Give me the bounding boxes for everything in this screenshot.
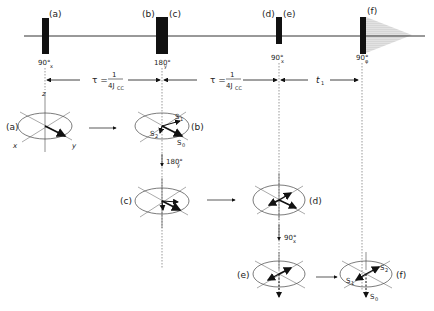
label-b: (b) <box>142 9 155 19</box>
svg-text:4J: 4J <box>108 82 115 90</box>
svg-text:CC: CC <box>117 85 124 91</box>
svg-text:t: t <box>316 75 320 85</box>
svg-text:(c): (c) <box>120 196 132 206</box>
pulse-angle-bc: 180° y <box>154 59 171 70</box>
fid-signal <box>366 17 412 53</box>
pulse-sequence: (a) (b) (c) (d) (e) (f) 90° x 180° y 90°… <box>24 6 425 290</box>
svg-text:CC: CC <box>235 85 242 91</box>
svg-text:x: x <box>50 63 53 69</box>
label-c: (c) <box>169 9 181 19</box>
label-e: (e) <box>283 9 296 19</box>
svg-text:90°: 90° <box>38 59 50 67</box>
svg-text:4J: 4J <box>226 82 233 90</box>
svg-text:2: 2 <box>385 267 388 273</box>
label-f: (f) <box>367 6 377 16</box>
label-d: (d) <box>262 9 275 19</box>
vector-diagram-b: S 1 S 2 S 0 (b) <box>135 112 204 148</box>
svg-text:x: x <box>12 142 18 150</box>
svg-text:1: 1 <box>112 71 116 79</box>
svg-text:1: 1 <box>230 71 234 79</box>
pulse-angle-a: 90° x <box>38 59 53 69</box>
svg-text:(a): (a) <box>6 122 19 132</box>
svg-text:y: y <box>164 63 167 70</box>
svg-text:1: 1 <box>321 80 324 86</box>
svg-text:2: 2 <box>155 133 158 139</box>
vector-diagram-c: (c) <box>120 178 189 228</box>
transition-pulse-180y: 180° y <box>166 158 183 169</box>
svg-text:(e): (e) <box>237 270 250 280</box>
svg-text:180°: 180° <box>154 59 171 67</box>
svg-text:0: 0 <box>182 142 185 148</box>
svg-text:x: x <box>293 238 296 244</box>
guide-lines <box>45 63 362 290</box>
svg-text:(d): (d) <box>309 196 322 206</box>
svg-text:(b): (b) <box>191 122 204 132</box>
pulse-angle-f: 90° φ <box>356 54 369 65</box>
svg-text:τ =: τ = <box>92 75 108 85</box>
svg-text:1: 1 <box>351 280 354 286</box>
pulse-sequence-figure: (a) (b) (c) (d) (e) (f) 90° x 180° y 90°… <box>0 0 434 311</box>
svg-text:0: 0 <box>375 296 378 302</box>
pulse-a <box>42 18 49 54</box>
delay-tau-2: τ = 1 4J CC <box>210 71 242 91</box>
transition-pulse-90x: 90° x <box>284 234 296 244</box>
svg-text:1: 1 <box>180 116 183 122</box>
label-a: (a) <box>49 9 62 19</box>
svg-text:y: y <box>177 162 180 169</box>
vector-diagram-a: z x y (a) <box>6 90 77 152</box>
pulse-de <box>276 17 282 44</box>
svg-text:τ =: τ = <box>210 75 226 85</box>
magnetization-vector <box>45 126 65 136</box>
pulse-f <box>360 17 366 54</box>
pulse-bc <box>156 17 168 54</box>
delay-t1: t 1 <box>316 75 324 86</box>
vector-diagram-f: S 2 S 1 S 0 (f) <box>340 252 406 302</box>
vector-diagram-d: (d) <box>253 173 322 220</box>
svg-text:x: x <box>281 58 284 64</box>
vector-diagram-e: (e) <box>237 252 305 297</box>
svg-text:(f): (f) <box>396 270 406 280</box>
svg-text:y: y <box>71 142 77 150</box>
svg-text:180°: 180° <box>166 158 183 166</box>
pulse-angle-de: 90° x <box>271 54 284 64</box>
delay-tau-1: τ = 1 4J CC <box>92 71 124 91</box>
